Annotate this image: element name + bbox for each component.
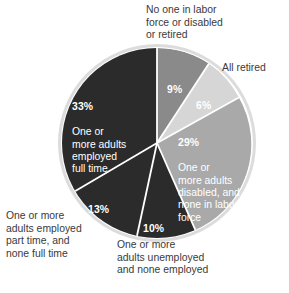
slice-percent-all-retired: 6% bbox=[196, 100, 226, 112]
callout-all-retired: All retired bbox=[222, 62, 289, 75]
slice-label-full-time: 33% One or more adults employed full tim… bbox=[72, 89, 142, 188]
slice-label-adults-disabled: 29% One or more adults disabled, and non… bbox=[178, 125, 240, 237]
slice-desc-full-time: One or more adults employed full time bbox=[72, 126, 142, 176]
slice-label-no-one-in-labor-force: 9% bbox=[167, 72, 199, 109]
slice-label-adults-unemployed: 10% bbox=[143, 211, 183, 248]
slice-percent-adults-unemployed: 10% bbox=[143, 223, 183, 235]
slice-percent-no-one-in-labor-force: 9% bbox=[167, 84, 199, 96]
slice-percent-full-time: 33% bbox=[72, 101, 142, 113]
slice-percent-adults-disabled: 29% bbox=[178, 137, 240, 149]
slice-desc-adults-disabled: One or more adults disabled, and none in… bbox=[178, 162, 240, 224]
slice-label-all-retired: 6% bbox=[196, 88, 226, 125]
pie-chart-figure: No one in labor force or disabled or ret… bbox=[0, 0, 289, 293]
slice-label-part-time: 13% bbox=[88, 192, 134, 229]
callout-no-one-in-labor-force: No one in labor force or disabled or ret… bbox=[146, 4, 278, 42]
slice-percent-part-time: 13% bbox=[88, 204, 134, 216]
